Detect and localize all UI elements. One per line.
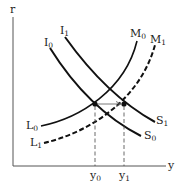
label-l0: L0 [26, 119, 38, 133]
label-m0: M0 [130, 27, 146, 41]
x-axis-label: y [167, 159, 175, 172]
tick-y1: y1 [118, 169, 130, 183]
label-l1: L1 [30, 136, 42, 150]
curve-i0-s0 [50, 48, 141, 136]
curve-l1-m1 [44, 45, 155, 143]
is-lm-diagram: r y I0 I1 M0 M1 S1 S0 L0 L1 y0 y1 [0, 0, 180, 186]
equilibrium-point-0 [92, 101, 97, 106]
label-s1: S1 [156, 114, 168, 128]
label-i0: I0 [44, 36, 53, 50]
label-s0: S0 [144, 129, 157, 143]
curve-l0-m0 [41, 41, 137, 126]
label-i1: I1 [60, 24, 69, 38]
equilibrium-point-1 [121, 101, 126, 106]
y-axis-label: r [10, 3, 16, 16]
diagram-canvas: r y I0 I1 M0 M1 S1 S0 L0 L1 y0 y1 [0, 0, 180, 186]
tick-y0: y0 [89, 169, 101, 183]
curve-i1-s1 [65, 37, 155, 122]
label-m1: M1 [150, 33, 166, 47]
